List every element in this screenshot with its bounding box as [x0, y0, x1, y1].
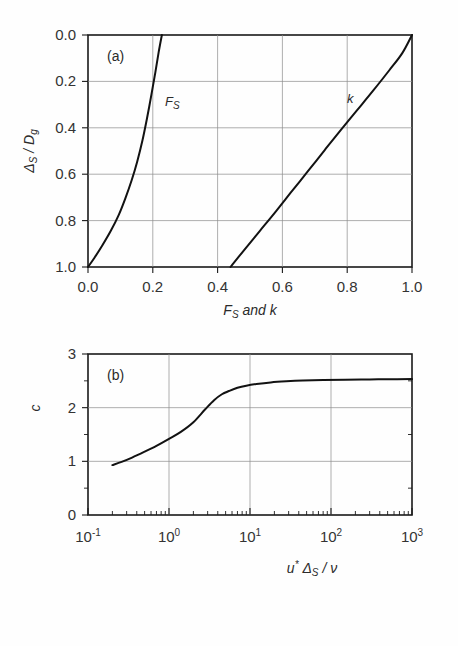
panel-b-chart: 3 2 1 0 10-1 100 101 102 103 (b) c u* ΔS… [0, 330, 458, 646]
panel-b-tag: (b) [107, 367, 124, 383]
panel-b-xtick-3: 102 [320, 527, 343, 545]
panel-a-curve-k [231, 35, 412, 267]
panel-a-ytick-5: 1.0 [55, 258, 76, 275]
panel-b-curve-c [112, 379, 412, 465]
panel-a-plot-frame [88, 35, 412, 267]
panel-b-y-axis-title: c [27, 405, 43, 412]
panel-a-xtick-5: 1.0 [402, 278, 423, 295]
panel-a-ytick-4: 0.8 [55, 212, 76, 229]
panel-a-curve-fs [88, 35, 162, 267]
panel-a-xtick-1: 0.2 [142, 278, 163, 295]
panel-a-x-axis-title: FS and k [223, 302, 277, 320]
panel-b-xtick-4: 103 [401, 527, 424, 545]
panel-a-ytick-0: 0.0 [55, 26, 76, 43]
panel-a-x-tickmarks [88, 267, 412, 273]
panel-a-curve-label-fs: FS [165, 94, 180, 111]
panel-b-ytick-1: 1 [68, 452, 76, 469]
panel-a-ytick-1: 0.2 [55, 72, 76, 89]
panel-b-ytick-3: 3 [68, 345, 76, 362]
panel-a-chart: 0.0 0.2 0.4 0.6 0.8 1.0 0.0 0.2 0.4 0.6 … [0, 0, 458, 330]
panel-a-y-tickmarks [82, 35, 88, 267]
panel-b-ytick-2: 2 [68, 399, 76, 416]
panel-a-xtick-4: 0.8 [337, 278, 358, 295]
panel-a-xtick-0: 0.0 [78, 278, 99, 295]
panel-b-xtick-2: 101 [239, 527, 262, 545]
panel-a-curve-label-k: k [347, 91, 355, 106]
panel-a-xtick-3: 0.6 [272, 278, 293, 295]
panel-a-y-axis-title: ΔS / Dg [21, 129, 39, 174]
panel-b-vertical-gridlines [169, 354, 331, 515]
panel-a-vertical-gridlines [153, 35, 347, 267]
panel-b-x-tickmarks [88, 508, 412, 515]
panel-a-xtick-2: 0.4 [207, 278, 228, 295]
panel-b-xtick-0: 10-1 [75, 527, 101, 545]
panel-b-ytick-0: 0 [68, 506, 76, 523]
panel-b-x-axis-title: u* ΔS / ν [287, 559, 337, 578]
panel-b-xtick-1: 100 [158, 527, 181, 545]
panel-a-ytick-3: 0.6 [55, 165, 76, 182]
panel-a-tag: (a) [107, 48, 124, 64]
figure-container: 0.0 0.2 0.4 0.6 0.8 1.0 0.0 0.2 0.4 0.6 … [0, 0, 458, 646]
panel-a-ytick-2: 0.4 [55, 119, 76, 136]
